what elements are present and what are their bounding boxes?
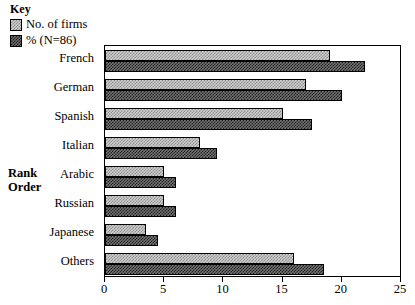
bar-arabic-count bbox=[105, 166, 164, 177]
y-axis-label-german: German bbox=[0, 81, 98, 94]
bar-group bbox=[105, 249, 400, 278]
y-axis-label-japanese: Japanese bbox=[0, 226, 98, 239]
bar-german-percent bbox=[105, 90, 342, 101]
bar-russian-count bbox=[105, 195, 164, 206]
bar-italian-count bbox=[105, 137, 200, 148]
x-tick-label-25: 25 bbox=[385, 283, 415, 296]
bar-japanese-count bbox=[105, 224, 146, 235]
y-axis-title-line2: Order bbox=[8, 180, 41, 194]
x-tick-label-20: 20 bbox=[326, 283, 356, 296]
plot-area bbox=[104, 45, 401, 277]
bar-spanish-percent bbox=[105, 119, 312, 130]
x-tick-label-15: 15 bbox=[267, 283, 297, 296]
x-tick-label-10: 10 bbox=[207, 283, 237, 296]
legend-swatch-icon-percent bbox=[10, 35, 22, 47]
x-tick-label-5: 5 bbox=[148, 283, 178, 296]
chart-legend: Key No. of firms % (N=86) bbox=[10, 3, 130, 48]
legend-title: Key bbox=[10, 3, 130, 16]
bar-group bbox=[105, 104, 400, 133]
x-tick-label-0: 0 bbox=[89, 283, 119, 296]
bars-layer bbox=[105, 46, 400, 276]
bar-german-count bbox=[105, 79, 306, 90]
bar-others-count bbox=[105, 253, 294, 264]
y-axis-label-arabic: Arabic bbox=[0, 168, 98, 181]
bar-group bbox=[105, 191, 400, 220]
bar-group bbox=[105, 75, 400, 104]
legend-swatch-icon-no-of-firms bbox=[10, 19, 22, 31]
bar-group bbox=[105, 133, 400, 162]
bar-french-count bbox=[105, 50, 330, 61]
legend-item-no-of-firms: No. of firms bbox=[10, 17, 130, 32]
y-axis-label-french: French bbox=[0, 52, 98, 65]
bar-others-percent bbox=[105, 264, 324, 275]
legend-label-no-of-firms: No. of firms bbox=[26, 18, 87, 31]
bar-group bbox=[105, 162, 400, 191]
y-axis-label-russian: Russian bbox=[0, 197, 98, 210]
y-axis-label-italian: Italian bbox=[0, 139, 98, 152]
y-axis-label-others: Others bbox=[0, 255, 98, 268]
bar-french-percent bbox=[105, 61, 365, 72]
bar-russian-percent bbox=[105, 206, 176, 217]
bar-chart: Key No. of firms % (N=86) Rank Order Fre… bbox=[0, 0, 415, 305]
bar-group bbox=[105, 46, 400, 75]
bar-italian-percent bbox=[105, 148, 217, 159]
bar-japanese-percent bbox=[105, 235, 158, 246]
legend-label-percent: % (N=86) bbox=[26, 34, 76, 47]
bar-arabic-percent bbox=[105, 177, 176, 188]
bar-group bbox=[105, 220, 400, 249]
bar-spanish-count bbox=[105, 108, 283, 119]
y-axis-label-spanish: Spanish bbox=[0, 110, 98, 123]
